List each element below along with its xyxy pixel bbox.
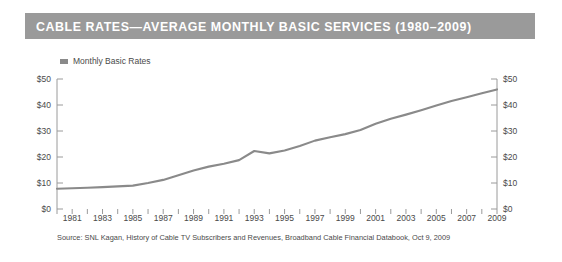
y-axis-label-left: $10 [37,179,51,188]
x-axis-label: 1997 [305,214,324,223]
legend-swatch-icon [60,59,68,64]
chart-canvas [57,79,497,209]
x-axis-label: 2005 [427,214,446,223]
y-axis-label-right: $0 [503,205,512,214]
chart-figure: CABLE RATES—AVERAGE MONTHLY BASIC SERVIC… [0,0,562,262]
x-axis-label: 1991 [214,214,233,223]
y-axis-label-left: $30 [37,127,51,136]
y-axis-label-left: $50 [37,75,51,84]
x-axis-label: 1989 [184,214,203,223]
x-axis-label: 2007 [457,214,476,223]
y-axis-label-right: $40 [503,101,517,110]
x-axis-label: 1993 [245,214,264,223]
chart-title-band: CABLE RATES—AVERAGE MONTHLY BASIC SERVIC… [25,13,535,39]
plot-area [57,79,497,209]
source-note: Source: SNL Kagan, History of Cable TV S… [57,233,450,242]
data-series-line [57,89,497,188]
x-axis-label: 1999 [336,214,355,223]
y-axis-label-left: $40 [37,101,51,110]
x-axis-label: 2003 [396,214,415,223]
x-axis-label: 1985 [123,214,142,223]
y-axis-label-right: $20 [503,153,517,162]
x-axis-label: 2001 [366,214,385,223]
y-axis-ticks-right [491,79,497,209]
x-axis-label: 1995 [275,214,294,223]
page-title: CABLE RATES—AVERAGE MONTHLY BASIC SERVIC… [25,19,472,34]
x-axis-label: 2009 [488,214,507,223]
x-axis-label: 1987 [154,214,173,223]
x-axis-label: 1981 [63,214,82,223]
legend-item-label: Monthly Basic Rates [73,56,150,66]
x-axis-label: 1983 [93,214,112,223]
axis-lines [57,79,497,209]
y-axis-label-left: $0 [42,205,51,214]
y-axis-label-right: $50 [503,75,517,84]
chart-legend: Monthly Basic Rates [60,56,150,66]
y-axis-label-left: $20 [37,153,51,162]
y-axis-label-right: $30 [503,127,517,136]
y-axis-label-right: $10 [503,179,517,188]
